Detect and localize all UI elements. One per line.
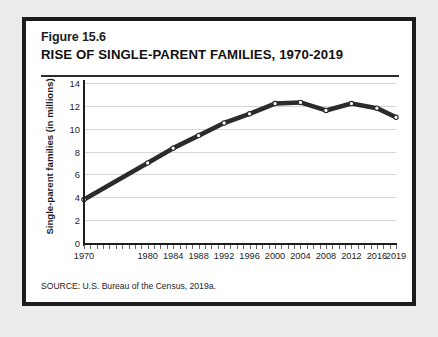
x-axis-tick — [332, 245, 333, 249]
x-axis-tick — [326, 245, 327, 249]
y-axis-title: Single-parent families (in millions) — [44, 74, 55, 240]
data-point-marker — [222, 121, 226, 125]
x-axis-tick — [129, 245, 130, 249]
data-point-marker — [145, 161, 149, 165]
data-point-marker — [171, 146, 175, 150]
x-axis-tick — [269, 245, 270, 249]
x-axis-line — [83, 243, 397, 245]
data-point-marker — [298, 100, 302, 104]
y-axis-tick-label: 0 — [64, 238, 80, 249]
x-axis-tick — [339, 245, 340, 249]
x-axis-tick — [84, 245, 85, 249]
x-axis-tick — [345, 245, 346, 249]
x-axis-tick — [358, 245, 359, 249]
x-axis-tick — [281, 245, 282, 249]
chart-plot-area — [84, 83, 396, 243]
x-axis-tick-label: 1980 — [137, 251, 157, 261]
x-axis-tick — [307, 245, 308, 249]
x-axis-tick — [250, 245, 251, 249]
x-axis-tick — [230, 245, 231, 249]
y-axis-tick-label: 14 — [64, 78, 80, 89]
x-axis-tick — [211, 245, 212, 249]
x-axis-tick — [192, 245, 193, 249]
x-axis-tick — [396, 245, 397, 249]
y-axis-tick-label: 4 — [64, 192, 80, 203]
x-axis-tick — [237, 245, 238, 249]
data-point-marker — [394, 115, 398, 119]
x-axis-tick — [383, 245, 384, 249]
x-axis-tick — [243, 245, 244, 249]
x-axis-tick-label: 2019 — [386, 251, 406, 261]
x-axis-tick — [97, 245, 98, 249]
x-axis-tick-label: 2004 — [290, 251, 310, 261]
x-axis-tick — [135, 245, 136, 249]
title-divider-rule — [41, 75, 399, 77]
y-axis-tick-label: 8 — [64, 146, 80, 157]
x-axis-tick — [180, 245, 181, 249]
y-axis-tick-label: 10 — [64, 123, 80, 134]
x-axis-tick — [205, 245, 206, 249]
x-axis-tick — [199, 245, 200, 249]
x-axis-tick-label: 2012 — [341, 251, 361, 261]
data-point-marker — [196, 133, 200, 137]
y-axis-line — [83, 80, 85, 246]
data-series-line — [84, 83, 396, 243]
figure-title: RISE OF SINGLE-PARENT FAMILIES, 1970-201… — [41, 47, 343, 62]
x-axis-tick-label: 2008 — [316, 251, 336, 261]
x-axis-tick — [160, 245, 161, 249]
x-axis-tick — [141, 245, 142, 249]
data-point-marker — [324, 108, 328, 112]
x-axis-tick — [167, 245, 168, 249]
series-polyline — [84, 102, 396, 199]
data-point-marker — [273, 101, 277, 105]
x-axis-tick — [313, 245, 314, 249]
source-note: SOURCE: U.S. Bureau of the Census, 2019a… — [41, 281, 216, 291]
x-axis-tick — [288, 245, 289, 249]
y-axis-tick-label: 12 — [64, 100, 80, 111]
x-axis-tick — [377, 245, 378, 249]
x-axis-tick — [320, 245, 321, 249]
x-axis-tick-label: 1970 — [74, 251, 94, 261]
x-axis-tick — [300, 245, 301, 249]
x-axis-tick — [262, 245, 263, 249]
chart-plot-wrapper: Single-parent families (in millions) 024… — [26, 83, 412, 275]
x-axis-tick — [103, 245, 104, 249]
x-axis-tick — [122, 245, 123, 249]
x-axis-tick — [148, 245, 149, 249]
x-axis-tick-label: 1992 — [214, 251, 234, 261]
x-axis-tick — [218, 245, 219, 249]
figure-number: Figure 15.6 — [41, 30, 106, 44]
x-axis-tick — [109, 245, 110, 249]
y-axis-tick-labels: 02468101214 — [62, 83, 80, 243]
y-axis-tick-label: 6 — [64, 169, 80, 180]
x-axis-tick-label: 1988 — [188, 251, 208, 261]
x-axis-tick — [275, 245, 276, 249]
x-axis-tick — [364, 245, 365, 249]
figure-inner: Figure 15.6 RISE OF SINGLE-PARENT FAMILI… — [26, 21, 412, 302]
data-point-marker — [247, 112, 251, 116]
x-axis-tick — [90, 245, 91, 249]
data-point-marker — [375, 106, 379, 110]
x-axis-tick — [154, 245, 155, 249]
x-axis-tick — [390, 245, 391, 249]
x-axis-tick — [351, 245, 352, 249]
x-axis-tick-label: 2000 — [265, 251, 285, 261]
x-axis-tick-label: 1996 — [239, 251, 259, 261]
x-axis-tick — [116, 245, 117, 249]
data-point-marker — [349, 101, 353, 105]
x-axis-tick — [371, 245, 372, 249]
x-axis-tick — [186, 245, 187, 249]
x-axis-tick — [294, 245, 295, 249]
figure-box: Figure 15.6 RISE OF SINGLE-PARENT FAMILI… — [22, 17, 416, 306]
x-axis-tick — [224, 245, 225, 249]
x-axis-tick — [256, 245, 257, 249]
x-axis-tick-label: 1984 — [163, 251, 183, 261]
x-axis-tick — [173, 245, 174, 249]
y-axis-tick-label: 2 — [64, 215, 80, 226]
x-axis-tick-label: 2016 — [367, 251, 387, 261]
